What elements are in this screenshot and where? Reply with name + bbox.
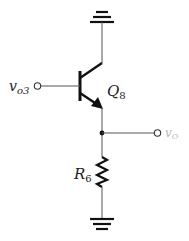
output-label: vO [165,126,179,141]
circuit-schematic: vo3 Q8 R6 vO [0,0,189,241]
resistor-label: R6 [73,165,92,184]
output-terminal [154,130,160,136]
input-label: vo3 [9,78,29,96]
resistor-icon [97,157,107,187]
input-terminal [34,83,40,89]
transistor-label: Q8 [107,82,126,101]
npn-transistor-icon [80,63,103,109]
ground-top-icon [90,12,114,22]
ground-bottom-icon [90,219,114,229]
